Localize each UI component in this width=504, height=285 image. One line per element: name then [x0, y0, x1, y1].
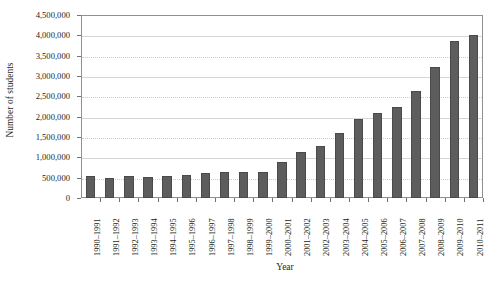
bar — [162, 176, 172, 198]
x-tick-label-text: 1991–1992 — [113, 218, 121, 256]
x-tick-label-text: 2008–2009 — [438, 218, 446, 256]
bar — [220, 172, 230, 198]
bar — [105, 178, 115, 198]
y-tick-label: 1,000,000 — [36, 153, 70, 162]
bars-layer — [81, 15, 483, 198]
bar — [201, 173, 211, 198]
y-tick-mark — [77, 198, 81, 199]
x-tick-label-text: 2007–2008 — [419, 218, 427, 256]
x-tick-label-text: 1993–1994 — [151, 218, 159, 256]
y-tick-label: 0 — [66, 194, 70, 203]
x-tick-label-text: 1995–1996 — [189, 218, 197, 256]
bar-chart-figure: Number of students 4,500,0004,000,0003,5… — [0, 0, 504, 285]
bar — [316, 146, 326, 198]
bar — [143, 177, 153, 198]
x-tick-label-text: 2006–2007 — [400, 218, 408, 256]
y-tick-label: 4,000,000 — [36, 31, 70, 40]
y-axis-tick-labels: 4,500,0004,000,0003,500,0003,000,0002,50… — [18, 0, 74, 210]
y-tick-label: 2,000,000 — [36, 112, 70, 121]
x-tick-label-text: 2001–2002 — [304, 218, 312, 256]
x-tick-label-text: 2009–2010 — [457, 218, 465, 256]
x-tick-label-text: 1994–1995 — [170, 218, 178, 256]
y-tick-label: 2,500,000 — [36, 92, 70, 101]
bar — [392, 107, 402, 199]
bar — [469, 35, 479, 198]
bar — [411, 91, 421, 198]
bar — [354, 119, 364, 198]
bar — [430, 67, 440, 198]
x-axis-title: Year — [0, 262, 504, 272]
x-tick-label-text: 1990–1991 — [94, 218, 102, 256]
y-tick-label: 500,000 — [42, 173, 70, 182]
bar — [450, 41, 460, 198]
bar — [239, 172, 249, 198]
bar — [86, 176, 96, 198]
y-tick-label: 3,000,000 — [36, 72, 70, 81]
x-tick-label-text: 2004–2005 — [362, 218, 370, 256]
x-tick-label-text: 1997–1998 — [228, 218, 236, 256]
x-tick-label-text: 1999–2000 — [266, 218, 274, 256]
x-axis-tick-labels: 1990–19911991–19921992–19931993–19941994… — [81, 202, 483, 260]
bar — [296, 152, 306, 198]
bar — [124, 176, 134, 198]
x-tick-label-text: 2000–2001 — [285, 218, 293, 256]
y-axis-title: Number of students — [0, 0, 20, 200]
x-tick-label-text: 1996–1997 — [209, 218, 217, 256]
bar — [277, 162, 287, 198]
x-tick-label-text: 2010–2011 — [477, 219, 485, 256]
x-tick-label-text: 2005–2006 — [381, 218, 389, 256]
x-tick-label-text: 1998–1999 — [247, 218, 255, 256]
x-axis-title-label: Year — [276, 262, 294, 272]
y-tick-label: 3,500,000 — [36, 51, 70, 60]
bar — [258, 172, 268, 198]
y-axis-title-label: Number of students — [5, 62, 15, 137]
x-tick-label-text: 2003–2004 — [343, 218, 351, 256]
y-tick-label: 1,500,000 — [36, 133, 70, 142]
x-tick-label-text: 1992–1993 — [132, 218, 140, 256]
bar — [335, 133, 345, 198]
bar — [182, 175, 192, 198]
y-tick-label: 4,500,000 — [36, 11, 70, 20]
x-tick-mark — [483, 198, 484, 202]
bar — [373, 113, 383, 198]
x-tick-label-text: 2002–2003 — [323, 218, 331, 256]
